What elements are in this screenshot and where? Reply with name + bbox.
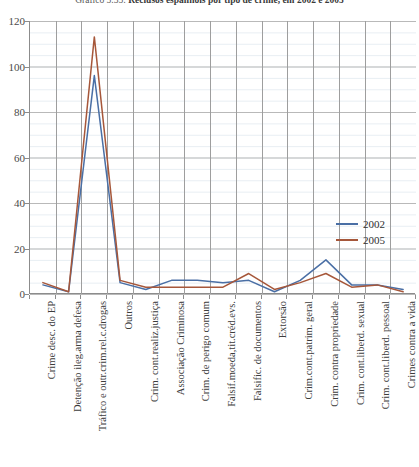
- legend-swatch-2002: [336, 223, 358, 225]
- series-line-2005: [43, 37, 403, 292]
- x-tick-mark: [338, 295, 339, 299]
- x-tick-mark: [106, 295, 107, 299]
- x-tick-mark: [132, 295, 133, 299]
- x-tick-label: Crim. cont.realiz.justiça: [149, 301, 160, 402]
- x-tick-label: Detenção ileg.arma defesa: [72, 301, 83, 412]
- x-tick-mark: [158, 295, 159, 299]
- x-tick-mark: [55, 295, 56, 299]
- x-tick-label: Crim.cont.patrim. geral: [303, 301, 314, 400]
- plot-area: [29, 21, 415, 294]
- x-tick-label: Crime desc. do EP: [46, 301, 57, 379]
- y-tick-label: 60: [1, 152, 25, 164]
- x-tick-mark: [80, 295, 81, 299]
- x-tick-mark: [235, 295, 236, 299]
- y-axis: 020406080100120: [0, 21, 25, 294]
- x-tick-label: Falsific. de documentos: [252, 301, 263, 401]
- series-line-2002: [43, 76, 403, 292]
- x-tick-label: Extorsão: [277, 301, 288, 338]
- chart-title-text: Reclusos espanhóis por tipo de crime, em…: [128, 0, 344, 5]
- legend-item-2005[interactable]: 2005: [336, 232, 416, 248]
- x-tick-label: Crim. contra propriedade: [329, 301, 340, 407]
- x-tick-label: Outros: [123, 301, 134, 330]
- x-tick-mark: [286, 295, 287, 299]
- x-tick-label: Associação Criminosa: [175, 301, 186, 395]
- y-tick-label: 120: [1, 15, 25, 27]
- x-tick-mark: [29, 295, 30, 299]
- legend-label-2002: 2002: [363, 218, 385, 230]
- y-tick-label: 0: [1, 288, 25, 300]
- legend: 20022005: [336, 216, 416, 248]
- y-tick-label: 40: [1, 197, 25, 209]
- x-tick-label: Crimes contra a vida: [406, 301, 417, 388]
- x-axis: Crime desc. do EPDetenção ileg.arma defe…: [29, 295, 415, 465]
- x-tick-mark: [261, 295, 262, 299]
- y-tick-label: 100: [1, 61, 25, 73]
- legend-label-2005: 2005: [363, 234, 385, 246]
- y-tick-label: 20: [1, 243, 25, 255]
- x-tick-label: Crim. de perigo comum: [200, 301, 211, 401]
- y-tick-label: 80: [1, 106, 25, 118]
- x-tick-label: Crim. cont.liberd. sexual: [355, 301, 366, 405]
- x-tick-mark: [364, 295, 365, 299]
- x-tick-mark: [209, 295, 210, 299]
- x-tick-mark: [415, 295, 416, 299]
- chart-title-number: Gráfico 5.35:: [75, 0, 126, 5]
- x-tick-label: Falsif.moeda,tit.créd.evs.: [226, 301, 237, 407]
- x-tick-label: Crim. cont.liberd. pessoal: [380, 301, 391, 409]
- chart-container: Gráfico 5.35: Reclusos espanhóis por tip…: [0, 0, 419, 467]
- legend-item-2002[interactable]: 2002: [336, 216, 416, 232]
- chart-title: Gráfico 5.35: Reclusos espanhóis por tip…: [0, 0, 419, 6]
- x-tick-mark: [183, 295, 184, 299]
- x-tick-label: Tráfico e outr.crim.rel.c.drogas: [97, 301, 108, 431]
- x-tick-mark: [389, 295, 390, 299]
- series-lines: [30, 21, 415, 293]
- legend-swatch-2005: [336, 239, 358, 241]
- x-tick-mark: [312, 295, 313, 299]
